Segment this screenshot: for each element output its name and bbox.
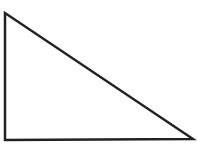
right-triangle	[5, 13, 193, 140]
diagram-canvas	[0, 0, 197, 154]
triangle-figure	[0, 0, 197, 154]
